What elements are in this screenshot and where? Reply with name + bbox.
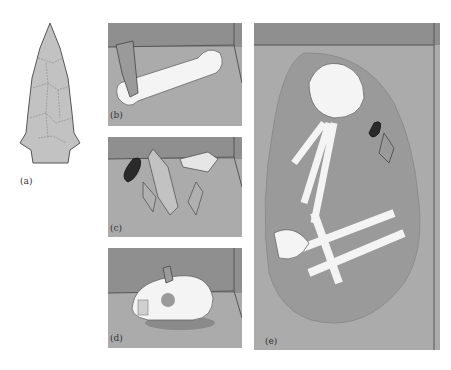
panel-a-label: (a) (20, 176, 32, 186)
panel-e (254, 23, 440, 350)
panel-b (108, 23, 242, 126)
panel-d (108, 248, 242, 348)
panel-b-label: (b) (110, 110, 123, 120)
panel-c-label: (c) (110, 223, 122, 233)
projectile-point-a (8, 18, 88, 168)
panel-e-label: (e) (265, 336, 277, 346)
panel-d-label: (d) (110, 333, 123, 343)
panel-a (8, 18, 88, 168)
panel-c (108, 137, 242, 237)
